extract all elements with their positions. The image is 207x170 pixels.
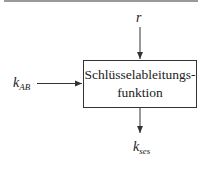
input-label-r: r <box>136 11 141 25</box>
input-label-kab: kAB <box>13 76 30 94</box>
block-label-line2: funktion <box>117 84 163 102</box>
key-derivation-function-block: Schlüsselableitungs- funktion <box>83 60 197 108</box>
diagram-canvas: Schlüsselableitungs- funktion r kAB kses <box>0 0 207 170</box>
block-label-line1: Schlüsselableitungs- <box>85 66 196 84</box>
output-label-kses: kses <box>133 140 150 158</box>
